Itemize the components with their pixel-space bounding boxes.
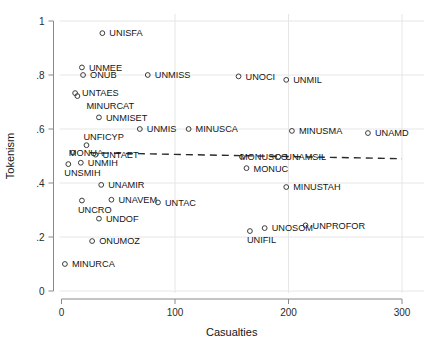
scatter-chart: UNISFAUNMEEONUBUNMISSUNOCIUNMILUNTAESMIN… [0,0,430,339]
data-point: MINUSMA [290,126,344,136]
x-tick-label: 0 [59,307,65,318]
point-label: UNOCI [246,72,276,82]
point-marker [97,216,102,221]
point-label: UNMISET [106,113,148,123]
point-label: MINURCA [72,259,116,269]
point-label: MONUA [69,148,104,158]
point-marker [284,77,289,82]
data-point: UNMISET [97,113,148,123]
point-label: UNMIS [147,124,177,134]
point-label: MINUSMA [299,126,343,136]
point-label: MINUSTAH [293,182,340,192]
data-point: UNFICYP [83,132,123,147]
point-marker [284,185,289,190]
point-label: UNAMIR [108,180,145,190]
point-marker [97,115,102,120]
data-point: MONUC [244,164,288,174]
data-point: UNPROFOR [303,221,365,231]
data-point: MONUA [69,148,104,158]
y-tick-label: 0 [39,286,45,297]
point-label: UNAMSIL [285,152,326,162]
point-marker [248,229,253,234]
data-point: UNMIH [78,158,118,168]
y-tick-label: .2 [36,232,45,243]
point-label: UNOSOM [272,223,313,233]
point-label: UNIFIL [247,235,276,245]
point-marker [66,162,71,167]
point-marker [366,131,371,136]
point-label: UNISFA [109,28,143,38]
y-tick-label: 1 [39,16,45,27]
x-tick-label: 100 [167,307,184,318]
data-point: UNDOF [97,214,139,224]
x-tick-label: 200 [280,307,297,318]
point-label: ONUMOZ [99,236,140,246]
point-label: UNMIL [293,75,322,85]
data-point: ONUMOZ [90,236,141,246]
point-marker [90,239,95,244]
point-label: MONUC [254,164,289,174]
data-point: UNAVEM [109,195,157,205]
point-label: MINURCAT [86,101,134,111]
point-marker [80,198,85,203]
point-label: UNMIH [88,158,118,168]
y-tick-label: .8 [36,70,45,81]
point-label: UNMISS [155,70,191,80]
point-label: UNFICYP [83,132,123,142]
data-point: MINUSTAH [284,182,341,192]
x-tick-label: 300 [394,307,411,318]
point-marker [78,160,83,165]
point-label: MINUSCA [196,124,239,134]
plot-area: UNISFAUNMEEONUBUNMISSUNOCIUNMILUNTAESMIN… [0,0,430,339]
y-tick-label: .4 [36,178,45,189]
point-label: UNTAC [165,198,196,208]
data-points: UNISFAUNMEEONUBUNMISSUNOCIUNMILUNTAESMIN… [63,28,409,269]
point-label: ONUB [90,70,117,80]
point-marker [244,166,249,171]
point-marker [80,65,85,70]
data-point: UNISFA [100,28,143,38]
data-point: UNAMD [366,128,409,138]
point-label: UNAVEM [118,195,157,205]
point-label: UNPROFOR [313,221,366,231]
point-label: UNTAES [82,88,119,98]
data-point: UNAMIR [99,180,145,190]
point-marker [63,262,68,267]
point-marker [109,197,114,202]
data-point: UNOSOM [262,223,313,233]
x-axis-title: Casualties [206,326,258,338]
y-tick-label: .6 [36,124,45,135]
data-point: UNTAC [156,198,197,208]
point-label: UNSMIH [64,168,100,178]
point-label: UNDOF [106,214,139,224]
data-point: MINURCA [63,259,116,269]
data-point: UNMIL [284,75,322,85]
point-marker [262,226,267,231]
y-axis-title: Tokenism [4,133,16,179]
point-marker [100,31,105,36]
point-label: UNAMD [375,128,409,138]
data-point: UNOCI [236,72,275,82]
data-point: UNCRO [78,198,112,214]
